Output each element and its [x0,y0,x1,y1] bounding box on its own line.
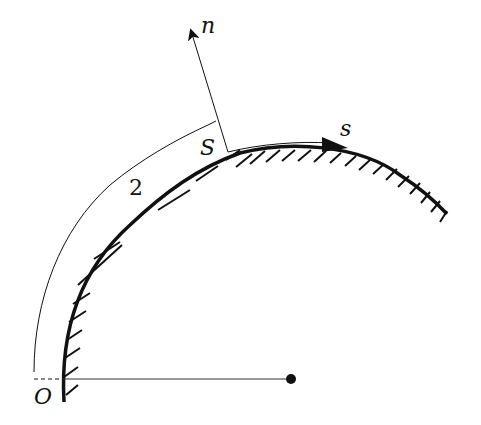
wall-curve [64,146,447,402]
wall-hatching [64,150,447,395]
label-O: O [34,384,52,409]
diagram-canvas: n s S 2 O [0,0,481,425]
label-n: n [201,13,215,38]
label-region-2: 2 [129,175,143,200]
label-S: S [200,135,215,160]
label-s: s [340,116,351,141]
center-point [286,374,296,384]
edge-to-normal [208,121,216,125]
boundary-layer-edge [34,125,208,372]
